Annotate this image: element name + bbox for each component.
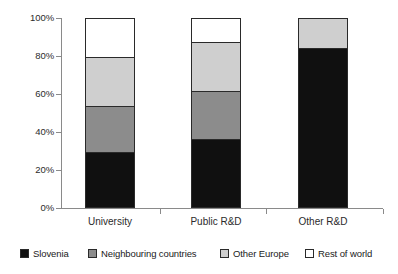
- legend-swatch-other-europe-icon: [220, 249, 229, 258]
- x-tick-label-public-rd: Public R&D: [161, 216, 271, 228]
- bar-public-rd[interactable]: [191, 18, 241, 208]
- chart-legend: Slovenia Neighbouring countries Other Eu…: [0, 244, 398, 266]
- legend-label-other-europe: Other Europe: [233, 248, 289, 259]
- segment-public-rd-slovenia[interactable]: [192, 139, 240, 207]
- legend-item-slovenia[interactable]: Slovenia: [20, 248, 69, 259]
- x-tick-label-other-rd: Other R&D: [268, 216, 378, 228]
- segment-other-rd-slovenia[interactable]: [299, 48, 347, 208]
- bar-other-rd[interactable]: [298, 18, 348, 208]
- x-axis-label-group: University Public R&D Other R&D: [0, 216, 398, 236]
- segment-university-slovenia[interactable]: [86, 152, 134, 207]
- bars-layer: [0, 0, 398, 240]
- segment-university-neighbouring-countries[interactable]: [86, 106, 134, 152]
- legend-swatch-rest-of-world-icon: [305, 249, 314, 258]
- legend-label-rest-of-world: Rest of world: [318, 248, 372, 259]
- legend-swatch-neighbouring-countries-icon: [88, 249, 97, 258]
- segment-other-rd-other-europe[interactable]: [299, 19, 347, 48]
- legend-label-neighbouring-countries: Neighbouring countries: [101, 248, 197, 259]
- legend-item-rest-of-world[interactable]: Rest of world: [305, 248, 372, 259]
- bar-university[interactable]: [85, 18, 135, 208]
- plot-area: 100% 80% 60% 40% 20% 0%: [0, 0, 398, 240]
- segment-university-other-europe[interactable]: [86, 57, 134, 106]
- x-tick-label-university: University: [55, 216, 165, 228]
- segment-university-rest-of-world[interactable]: [86, 19, 134, 57]
- segment-public-rd-other-europe[interactable]: [192, 42, 240, 91]
- legend-swatch-slovenia-icon: [20, 249, 29, 258]
- legend-item-neighbouring-countries[interactable]: Neighbouring countries: [88, 248, 197, 259]
- segment-public-rd-rest-of-world[interactable]: [192, 19, 240, 42]
- segment-public-rd-neighbouring-countries[interactable]: [192, 91, 240, 139]
- legend-label-slovenia: Slovenia: [33, 248, 69, 259]
- legend-item-other-europe[interactable]: Other Europe: [220, 248, 289, 259]
- stacked-bar-chart: 100% 80% 60% 40% 20% 0%: [0, 0, 398, 274]
